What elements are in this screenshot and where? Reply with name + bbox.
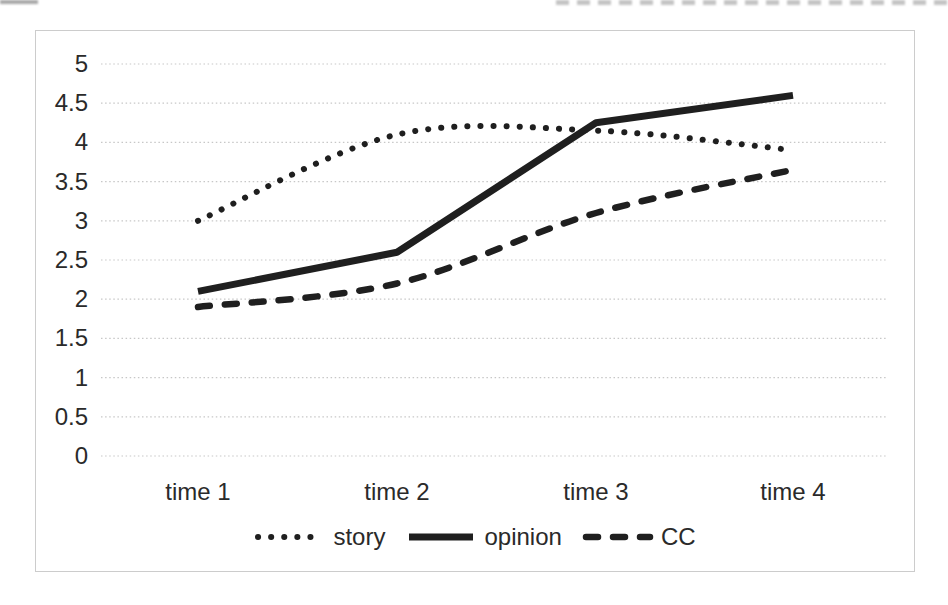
legend-label-CC: CC <box>661 523 696 551</box>
x-tick-label: time 4 <box>723 477 863 507</box>
scan-artifact-top-right <box>556 0 948 5</box>
legend-swatch-dashed-line <box>582 531 654 543</box>
chart-frame: 00.511.522.533.544.55 time 1time 2time 3… <box>35 30 915 572</box>
y-tick-label: 2 <box>36 284 88 314</box>
x-tick-label: time 3 <box>526 477 666 507</box>
legend-swatch-dotted-line <box>254 531 326 543</box>
y-tick-label: 1 <box>36 363 88 393</box>
y-tick-label: 0.5 <box>36 402 88 432</box>
y-tick-label: 0 <box>36 441 88 471</box>
y-tick-label: 4 <box>36 127 88 157</box>
legend-label-opinion: opinion <box>484 523 561 551</box>
legend-item-opinion: opinion <box>405 523 561 551</box>
scanned-page: 00.511.522.533.544.55 time 1time 2time 3… <box>0 0 948 605</box>
y-tick-label: 3 <box>36 206 88 236</box>
x-tick-label: time 1 <box>128 477 268 507</box>
y-tick-label: 2.5 <box>36 245 88 275</box>
legend-item-CC: CC <box>582 523 696 551</box>
legend-label-story: story <box>333 523 385 551</box>
x-tick-label: time 2 <box>327 477 467 507</box>
y-tick-label: 5 <box>36 49 88 79</box>
y-tick-label: 3.5 <box>36 167 88 197</box>
y-tick-label: 1.5 <box>36 323 88 353</box>
legend-swatch-solid-line <box>405 531 477 543</box>
legend-item-story: story <box>254 523 385 551</box>
chart-legend: storyopinionCC <box>36 523 914 551</box>
y-tick-label: 4.5 <box>36 88 88 118</box>
series-line-story <box>198 126 793 221</box>
scan-artifact-top-left <box>0 0 38 4</box>
